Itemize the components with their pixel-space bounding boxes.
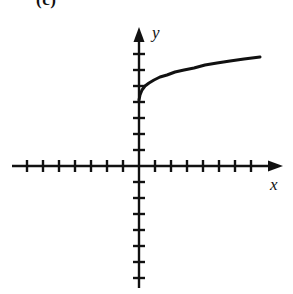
y-axis-arrow-icon bbox=[134, 27, 145, 42]
figure-panel: (c) bbox=[0, 0, 293, 294]
x-axis-label: x bbox=[269, 175, 278, 194]
y-axis-label: y bbox=[150, 23, 160, 42]
x-axis-arrow-icon bbox=[268, 161, 283, 172]
coordinate-plane-graph: y x bbox=[0, 0, 293, 294]
plotted-curve bbox=[139, 57, 260, 100]
